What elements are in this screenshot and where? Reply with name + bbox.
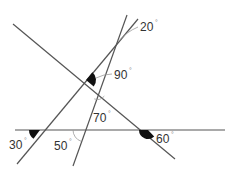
angle-60-wedge — [139, 130, 154, 139]
angle-50-degree: ° — [69, 138, 72, 145]
angle-70-label: 70 — [93, 111, 107, 125]
angle-70-degree: ° — [108, 110, 111, 117]
near-vertical-line — [73, 15, 127, 166]
angle-60-degree: ° — [171, 131, 174, 138]
steep-left-line — [17, 19, 138, 164]
angle-90-wedge — [86, 72, 96, 86]
angle-50-label: 50 — [54, 139, 68, 153]
angle-60-label: 60 — [156, 132, 170, 146]
angle-50-arc — [73, 130, 81, 141]
angle-30-label: 30 — [9, 138, 23, 152]
angle-90-degree: ° — [129, 67, 132, 74]
angle-30-degree: ° — [24, 137, 27, 144]
angle-90-label: 90 — [114, 68, 128, 82]
angle-20-label: 20 — [140, 20, 154, 34]
angle-90-leader — [96, 74, 112, 78]
angle-diagram: 20 ° 90 ° 70 ° 30 ° 50 ° 60 ° — [0, 0, 235, 177]
angle-20-degree: ° — [155, 19, 158, 26]
